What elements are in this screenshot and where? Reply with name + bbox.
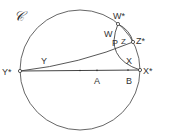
point-x-star [138, 68, 141, 71]
label-y-star: Y* [2, 67, 12, 77]
label-x-star: X* [143, 66, 153, 76]
label-z: Z [121, 37, 126, 46]
point-mid [79, 70, 81, 72]
point-y-star [18, 69, 21, 72]
label-x: X [126, 56, 132, 66]
point-a [96, 70, 98, 72]
label-w-star: W* [113, 11, 125, 21]
label-a: A [94, 76, 100, 86]
label-p: P [112, 38, 118, 48]
label-z-star: Z* [136, 36, 145, 46]
geometry-diagram: 𝒞 W* Z* X* Y* W P Z X Y A B [0, 0, 169, 135]
label-circle-c: 𝒞 [14, 8, 28, 24]
point-w-star [116, 22, 119, 25]
label-b: B [126, 76, 132, 86]
point-b [127, 69, 129, 71]
label-y: Y [41, 56, 47, 66]
point-z-star [131, 40, 134, 43]
